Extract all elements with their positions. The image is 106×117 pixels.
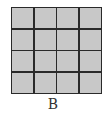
- grid-cell: [57, 73, 78, 93]
- grid-cell: [35, 73, 56, 93]
- grid-cell: [35, 30, 56, 50]
- grid-cell: [57, 8, 78, 28]
- grid-cell: [57, 30, 78, 50]
- grid-cell: [80, 51, 101, 71]
- grid-cell: [80, 73, 101, 93]
- grid-cell: [57, 51, 78, 71]
- grid-cell: [80, 30, 101, 50]
- grid-cell: [12, 51, 33, 71]
- grid-cell: [12, 73, 33, 93]
- grid-cell: [35, 51, 56, 71]
- grid-cell: [35, 8, 56, 28]
- grid-cell: [12, 30, 33, 50]
- grid-cell: [12, 8, 33, 28]
- square-grid: [11, 7, 102, 94]
- figure-label: B: [0, 96, 106, 112]
- grid-cell: [80, 8, 101, 28]
